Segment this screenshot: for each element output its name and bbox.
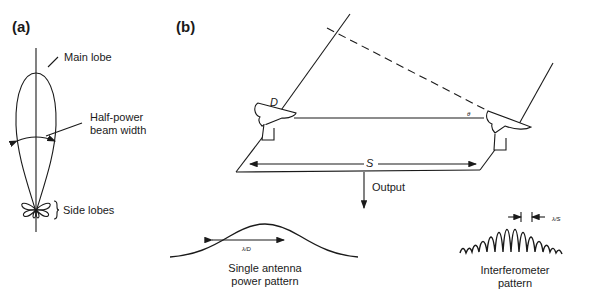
angle-theta-symbol: θ (467, 108, 470, 121)
half-power-label-line1: Half-power (90, 111, 143, 124)
side-lobes-label: Side lobes (63, 204, 114, 217)
left-source-direction (279, 14, 350, 113)
baseline-bottom-line (236, 170, 480, 172)
interferometer-diagram (170, 14, 562, 257)
right-source-direction (519, 63, 553, 124)
diagram-canvas (0, 0, 591, 292)
fringe-spacing-symbol: λ/S (552, 213, 561, 226)
main-lobe-pointer (48, 57, 58, 67)
main-lobe-label: Main lobe (64, 51, 112, 64)
baseline-s-symbol: S (366, 157, 373, 170)
interferometer-curve (460, 230, 562, 255)
interferometer-caption-line1: Interferometer (470, 264, 560, 277)
half-power-label-line2: beam width (90, 124, 146, 137)
interferometer-caption-line2: pattern (470, 277, 560, 290)
half-power-pointer (46, 123, 82, 136)
path-difference-dashed (327, 28, 488, 111)
dish-diameter-symbol: D (270, 96, 278, 109)
panel-b-label: (b) (176, 18, 195, 35)
single-pattern-caption-line1: Single antenna (210, 262, 320, 275)
single-pattern-caption-line2: power pattern (210, 275, 320, 288)
right-antenna-dish (487, 111, 531, 150)
side-lobes-brace (54, 201, 59, 219)
output-label: Output (372, 181, 405, 194)
single-beamwidth-symbol: λ/D (242, 243, 251, 256)
panel-a-label: (a) (12, 18, 30, 35)
